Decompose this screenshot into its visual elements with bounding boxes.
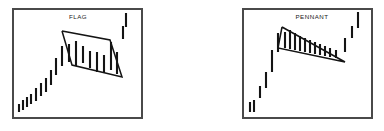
figure-canvas: FLAG PENNANT [0,0,384,131]
panel-pennant: PENNANT [243,9,372,118]
panel-pennant-title: PENNANT [295,13,328,20]
panel-flag-title: FLAG [69,13,87,20]
chart-pattern-figure: FLAG PENNANT [0,0,384,131]
panel-pennant-frame [243,9,372,118]
panel-flag-frame [13,9,142,118]
panel-flag: FLAG [13,9,142,118]
